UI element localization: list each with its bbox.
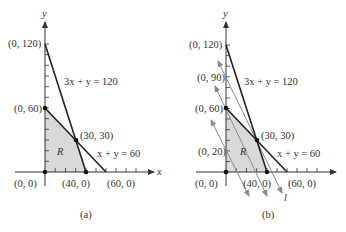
region-label: R [56,146,64,157]
point-label-0-0: (0, 0) [14,178,37,190]
point-label-0-20: (0, 20) [198,146,226,158]
point-label-30-30: (30, 30) [261,130,295,142]
vertex-0-60 [224,106,229,111]
vertex-40-0 [265,170,270,175]
panel-b: y (0, 120) (0, 90) (0, 60) (0, 20) (30, … [189,8,336,221]
caption-a: (a) [80,209,92,221]
equation-3x-y-120: 3x + y = 120 [244,76,298,87]
vertex-40-0 [84,170,89,175]
equation-3x-y-120: 3x + y = 120 [64,76,118,87]
point-label-0-90: (0, 90) [197,72,225,84]
point-label-60-0: (60, 0) [288,178,316,190]
point-label-40-0: (40, 0) [243,178,271,190]
equation-x-y-60: x + y = 60 [97,148,140,159]
vertex-0-60 [43,106,48,111]
point-label-0-60: (0, 60) [195,103,223,115]
equation-x-y-60: x + y = 60 [277,148,320,159]
point-label-0-60: (0, 60) [14,103,42,115]
line-label-l: l [284,192,287,203]
diagram-canvas: y x (0, 120) (0, 60) (30, 30) (0, 0) (40… [0,0,346,232]
vertex-0-0 [43,170,48,175]
region-label: R [239,146,247,157]
point-label-40-0: (40, 0) [62,178,90,190]
vertex-30-30 [255,138,260,143]
vertex-30-30 [74,138,79,143]
x-axis-label: x [156,166,162,177]
y-axis-label: y [41,8,47,19]
point-label-0-120: (0, 120) [8,38,42,50]
vertex-0-0 [224,170,229,175]
panel-a: y x (0, 120) (0, 60) (30, 30) (0, 0) (40… [8,8,162,221]
point-label-30-30: (30, 30) [80,130,114,142]
caption-b: (b) [262,209,275,221]
point-label-0-120: (0, 120) [189,39,223,51]
y-axis-label: y [222,8,228,19]
point-label-60-0: (60, 0) [107,178,135,190]
point-label-0-0: (0, 0) [195,178,218,190]
